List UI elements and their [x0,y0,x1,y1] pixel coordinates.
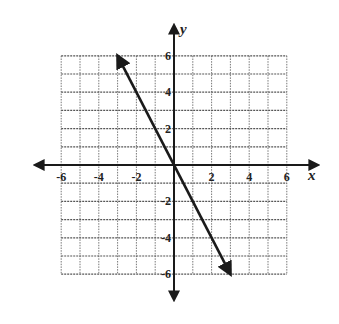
x-axis-label: x [307,167,316,183]
x-tick-label: -2 [131,170,141,184]
y-tick-label: 6 [165,49,171,63]
x-tick-label: 4 [246,170,252,184]
y-axis-label: y [178,21,187,37]
y-tick-label: -2 [161,194,171,208]
y-tick-label: -4 [161,231,171,245]
coordinate-plane: xy-6-4-2246642-2-4-6 [0,0,339,324]
x-tick-label: -6 [56,170,66,184]
y-tick-label: 2 [165,122,171,136]
y-tick-label: 4 [165,85,171,99]
x-tick-label: -4 [94,170,104,184]
x-tick-label: 6 [284,170,290,184]
x-tick-label: 2 [209,170,215,184]
y-tick-label: -6 [161,267,171,281]
